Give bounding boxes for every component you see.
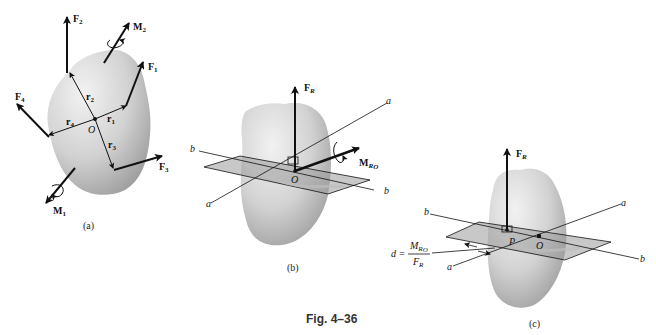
caption-c: (c) bbox=[529, 318, 540, 330]
label-F4: F4 bbox=[15, 91, 25, 104]
label-F3: F3 bbox=[159, 161, 169, 174]
label-FR-b: FR bbox=[304, 82, 315, 95]
label-a-bottom-c: a bbox=[447, 261, 452, 272]
figure-canvas: F2 M2 F1 F4 F3 M1 r2 r1 r4 r3 O (a) FR M… bbox=[0, 0, 656, 335]
panel-c: FR P O a a b b d = MRO FR (c) bbox=[391, 148, 645, 330]
label-b-right-b: b bbox=[384, 185, 389, 196]
label-b-left-c: b bbox=[424, 206, 429, 217]
point-P bbox=[505, 228, 509, 232]
label-O-a: O bbox=[88, 124, 95, 135]
point-O-c bbox=[537, 234, 541, 238]
caption-a: (a) bbox=[83, 220, 94, 232]
panel-a: F2 M2 F1 F4 F3 M1 r2 r1 r4 r3 O (a) bbox=[15, 13, 169, 232]
label-F1: F1 bbox=[148, 61, 158, 74]
d-leader-line bbox=[432, 248, 495, 253]
F4-arrow bbox=[17, 104, 49, 137]
point-O-b bbox=[293, 169, 297, 173]
label-M1: M1 bbox=[53, 205, 66, 218]
label-P: P bbox=[508, 236, 515, 247]
d-arrow-1 bbox=[465, 244, 477, 247]
label-a-top-b: a bbox=[386, 95, 391, 106]
label-b-right-c: b bbox=[640, 253, 645, 264]
label-O-b: O bbox=[291, 174, 298, 185]
label-MRO: MRO bbox=[359, 157, 378, 171]
figure-title: Fig. 4–36 bbox=[306, 312, 358, 326]
label-d-denominator: FR bbox=[412, 256, 424, 269]
rigid-body-a bbox=[48, 50, 151, 195]
caption-b: (b) bbox=[287, 262, 299, 274]
label-a-bottom-b: a bbox=[206, 198, 211, 209]
point-O-a bbox=[93, 117, 97, 121]
MRO-curl-icon bbox=[334, 142, 344, 163]
panel-b: FR MRO O a a b b (b) bbox=[190, 82, 391, 274]
label-O-c: O bbox=[536, 240, 543, 251]
label-b-left-b: b bbox=[190, 143, 195, 154]
label-FR-c: FR bbox=[516, 148, 527, 161]
label-a-top-c: a bbox=[621, 197, 626, 208]
label-d-lhs: d = bbox=[391, 248, 405, 259]
label-M2: M2 bbox=[133, 21, 146, 34]
label-d-numerator: MRO bbox=[409, 240, 428, 254]
label-F2: F2 bbox=[73, 13, 83, 26]
